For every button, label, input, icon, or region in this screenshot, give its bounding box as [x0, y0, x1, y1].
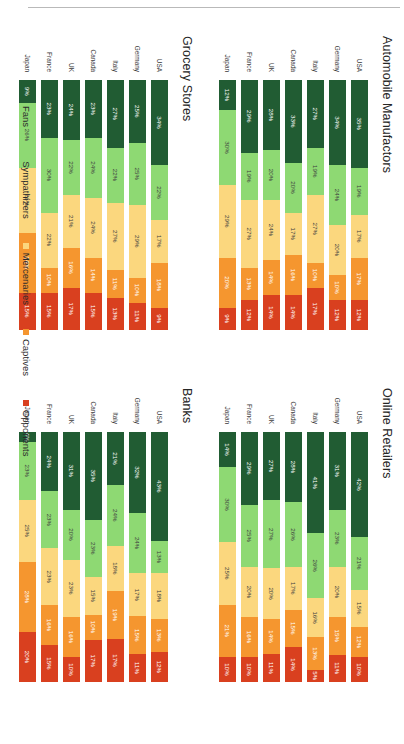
bar-segment[interactable]: 12%: [351, 627, 368, 657]
bar-segment[interactable]: 21%: [63, 195, 80, 248]
bar-segment[interactable]: 13%: [151, 619, 168, 652]
bar-segment[interactable]: 15%: [85, 293, 102, 331]
bar-segment[interactable]: 24%: [329, 165, 346, 225]
bar-segment[interactable]: 23%: [41, 491, 58, 548]
bar-segment[interactable]: 21%: [351, 537, 368, 590]
stacked-bar[interactable]: 24%22%21%16%17%: [63, 80, 80, 330]
bar-segment[interactable]: 19%: [351, 168, 368, 216]
bar-segment[interactable]: 11%: [129, 303, 146, 331]
bar-segment[interactable]: 15%: [41, 293, 58, 331]
bar-segment[interactable]: 18%: [151, 573, 168, 618]
bar-segment[interactable]: 15%: [129, 616, 146, 654]
stacked-bar[interactable]: 34%22%17%18%9%: [151, 80, 168, 330]
bar-segment[interactable]: 14%: [85, 258, 102, 293]
stacked-bar[interactable]: 12%30%29%20%9%: [219, 80, 236, 330]
stacked-bar[interactable]: 35%19%17%17%12%: [351, 80, 368, 330]
bar-segment[interactable]: 19%: [107, 591, 124, 639]
bar-segment[interactable]: 15%: [351, 590, 368, 628]
legend-item[interactable]: Sympathizers: [21, 151, 32, 219]
bar-segment[interactable]: 19%: [307, 148, 324, 196]
bar-segment[interactable]: 10%: [329, 275, 346, 300]
stacked-bar[interactable]: 23%30%22%10%15%: [41, 80, 58, 330]
bar-segment[interactable]: 11%: [329, 655, 346, 683]
bar-segment[interactable]: 16%: [41, 605, 58, 645]
bar-segment[interactable]: 11%: [107, 270, 124, 298]
stacked-bar[interactable]: 31%23%20%15%11%: [329, 432, 346, 682]
bar-segment[interactable]: 25%: [219, 542, 236, 605]
legend-item[interactable]: Captives: [21, 329, 32, 376]
bar-segment[interactable]: 17%: [285, 567, 302, 610]
stacked-bar[interactable]: 43%13%18%13%12%: [151, 432, 168, 682]
stacked-bar[interactable]: 27%22%27%11%13%: [107, 80, 124, 330]
bar-segment[interactable]: 17%: [63, 288, 80, 331]
bar-segment[interactable]: 22%: [151, 165, 168, 220]
bar-segment[interactable]: 25%: [241, 505, 258, 568]
bar-segment[interactable]: 25%: [129, 80, 146, 143]
bar-segment[interactable]: 10%: [307, 263, 324, 288]
bar-segment[interactable]: 29%: [219, 185, 236, 258]
bar-segment[interactable]: 22%: [63, 140, 80, 195]
bar-segment[interactable]: 16%: [285, 255, 302, 295]
bar-segment[interactable]: 31%: [329, 432, 346, 510]
stacked-bar[interactable]: 4%23%25%28%20%: [19, 432, 36, 682]
bar-segment[interactable]: 20%: [263, 568, 280, 619]
stacked-bar[interactable]: 41%26%16%13%5%: [307, 432, 324, 682]
bar-segment[interactable]: 27%: [307, 195, 324, 263]
stacked-bar[interactable]: 27%19%27%10%17%: [307, 80, 324, 330]
bar-segment[interactable]: 19%: [241, 153, 258, 201]
stacked-bar[interactable]: 23%24%24%14%15%: [85, 80, 102, 330]
bar-segment[interactable]: 27%: [107, 203, 124, 271]
bar-segment[interactable]: 43%: [151, 432, 168, 541]
legend-item[interactable]: Mercenaries: [21, 243, 32, 305]
bar-segment[interactable]: 9%: [219, 308, 236, 331]
bar-segment[interactable]: 41%: [307, 432, 324, 533]
bar-segment[interactable]: 23%: [85, 80, 102, 138]
stacked-bar[interactable]: 32%24%17%15%11%: [129, 432, 146, 682]
bar-segment[interactable]: 27%: [307, 80, 324, 148]
stacked-bar[interactable]: 29%19%27%13%12%: [241, 80, 258, 330]
stacked-bar[interactable]: 35%23%15%10%17%: [85, 432, 102, 682]
bar-segment[interactable]: 12%: [219, 80, 236, 110]
bar-segment[interactable]: 10%: [85, 615, 102, 640]
bar-segment[interactable]: 22%: [107, 148, 124, 203]
bar-segment[interactable]: 27%: [263, 432, 280, 500]
bar-segment[interactable]: 14%: [285, 295, 302, 330]
bar-segment[interactable]: 24%: [129, 513, 146, 574]
stacked-bar[interactable]: 42%21%15%12%10%: [351, 432, 368, 682]
stacked-bar[interactable]: 14%30%25%21%10%: [219, 432, 236, 682]
bar-segment[interactable]: 21%: [219, 605, 236, 658]
bar-segment[interactable]: 17%: [307, 288, 324, 331]
stacked-bar[interactable]: 34%24%20%10%12%: [329, 80, 346, 330]
bar-segment[interactable]: 26%: [307, 533, 324, 597]
stacked-bar[interactable]: 33%20%17%16%14%: [285, 80, 302, 330]
bar-segment[interactable]: 30%: [219, 467, 236, 542]
bar-segment[interactable]: 17%: [129, 573, 146, 616]
bar-segment[interactable]: 25%: [19, 500, 36, 563]
bar-segment[interactable]: 5%: [307, 670, 324, 682]
bar-segment[interactable]: 17%: [285, 213, 302, 256]
bar-segment[interactable]: 28%: [19, 562, 36, 632]
bar-segment[interactable]: 32%: [129, 432, 146, 513]
bar-segment[interactable]: 30%: [219, 110, 236, 185]
legend-item[interactable]: Fans: [21, 96, 32, 127]
bar-segment[interactable]: 12%: [151, 652, 168, 682]
bar-segment[interactable]: 20%: [263, 150, 280, 200]
bar-segment[interactable]: 20%: [285, 163, 302, 213]
bar-segment[interactable]: 11%: [263, 654, 280, 682]
bar-segment[interactable]: 28%: [263, 80, 280, 150]
bar-segment[interactable]: 24%: [85, 138, 102, 198]
bar-segment[interactable]: 23%: [63, 560, 80, 618]
bar-segment[interactable]: 29%: [241, 432, 258, 505]
bar-segment[interactable]: 34%: [151, 80, 168, 165]
bar-segment[interactable]: 27%: [107, 80, 124, 148]
bar-segment[interactable]: 12%: [329, 300, 346, 330]
bar-segment[interactable]: 23%: [329, 510, 346, 568]
bar-segment[interactable]: 17%: [85, 640, 102, 683]
bar-segment[interactable]: 35%: [85, 432, 102, 520]
bar-segment[interactable]: 35%: [351, 80, 368, 168]
bar-segment[interactable]: 10%: [219, 657, 236, 682]
bar-segment[interactable]: 23%: [85, 520, 102, 578]
bar-segment[interactable]: 29%: [129, 205, 146, 278]
bar-segment[interactable]: 16%: [63, 248, 80, 288]
bar-segment[interactable]: 14%: [263, 260, 280, 295]
